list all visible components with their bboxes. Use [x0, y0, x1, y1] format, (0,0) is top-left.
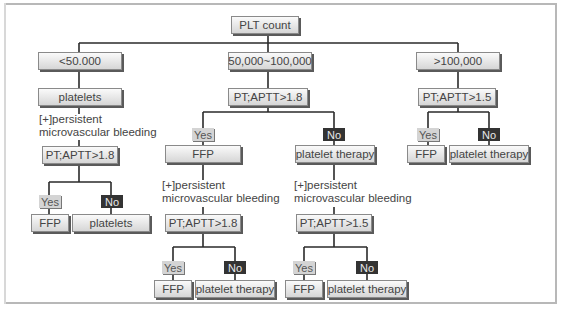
mid-yes-no-tag: No: [224, 261, 246, 274]
low-range-label: <50.000: [59, 55, 101, 67]
mid-range-node: 50,000~100,000: [228, 52, 312, 70]
mid-no-note-line2: microvascular bleeding: [294, 192, 412, 205]
high-yes-result: FFP: [415, 148, 437, 160]
mid-no-yes-label: Yes: [295, 262, 313, 274]
high-range-label: >100,000: [434, 55, 482, 67]
high-no-label: No: [482, 129, 496, 141]
low-yes-label: Yes: [41, 196, 59, 208]
mid-yes-note: [+]persistent microvascular bleeding: [162, 179, 280, 205]
mid-no-no-result: platelet therapy: [328, 283, 407, 295]
mid-test-label: PT;APTT>1.8: [234, 91, 303, 103]
low-no-result-node: platelets: [72, 214, 150, 232]
mid-no-no-label: No: [360, 262, 374, 274]
low-yes-result-node: FFP: [31, 214, 69, 232]
mid-yes-note-line1: [+]persistent: [162, 179, 280, 192]
low-note-line2: microvascular bleeding: [39, 126, 157, 139]
mid-yes-action-node: FFP: [165, 145, 241, 163]
root-label: PLT count: [239, 19, 290, 31]
mid-yes-test-node: PT;APTT>1.8: [165, 214, 241, 232]
high-test-label: PT;APTT>1.5: [423, 91, 492, 103]
low-note: [+]persistent microvascular bleeding: [39, 113, 157, 139]
mid-no-no-tag: No: [356, 261, 378, 274]
low-action-label: platelets: [59, 91, 102, 103]
mid-no-yes-tag: Yes: [293, 261, 315, 274]
mid-test-node: PT;APTT>1.8: [228, 88, 308, 106]
mid-no-note-line1: [+]persistent: [294, 179, 412, 192]
high-no-result-node: platelet therapy: [449, 145, 529, 163]
mid-no-test-node: PT;APTT>1.5: [296, 214, 372, 232]
mid-yes-yes-result: FFP: [162, 283, 184, 295]
mid-no-no-result-node: platelet therapy: [327, 280, 407, 298]
mid-no-tag: No: [323, 128, 345, 141]
mid-yes-tag: Yes: [192, 128, 214, 141]
high-test-node: PT;APTT>1.5: [418, 88, 496, 106]
low-yes-result: FFP: [39, 217, 61, 229]
low-no-tag: No: [101, 195, 123, 208]
root-node-plt-count: PLT count: [231, 16, 299, 34]
mid-no-note: [+]persistent microvascular bleeding: [294, 179, 412, 205]
low-action-node: platelets: [38, 88, 122, 106]
mid-yes-test-label: PT;APTT>1.8: [169, 217, 238, 229]
low-note-line1: [+]persistent: [39, 113, 157, 126]
mid-range-label: 50,000~100,000: [228, 55, 311, 67]
high-yes-result-node: FFP: [407, 145, 445, 163]
high-yes-label: Yes: [419, 129, 437, 141]
mid-yes-no-result-node: platelet therapy: [195, 280, 275, 298]
high-yes-tag: Yes: [417, 128, 439, 141]
low-no-label: No: [105, 196, 119, 208]
mid-no-action-label: platelet therapy: [296, 148, 375, 160]
mid-no-yes-result: FFP: [293, 283, 315, 295]
mid-no-action-node: platelet therapy: [295, 145, 375, 163]
mid-yes-no-label: No: [228, 262, 242, 274]
mid-no-test-label: PT;APTT>1.5: [300, 217, 369, 229]
low-no-result: platelets: [90, 217, 133, 229]
mid-yes-yes-result-node: FFP: [154, 280, 192, 298]
mid-no-yes-result-node: FFP: [285, 280, 323, 298]
low-test-node: PT;APTT>1.8: [42, 146, 118, 164]
mid-no-label: No: [327, 129, 341, 141]
high-no-result: platelet therapy: [450, 148, 529, 160]
low-yes-tag: Yes: [39, 195, 61, 208]
mid-yes-yes-label: Yes: [164, 262, 182, 274]
mid-yes-no-result: platelet therapy: [196, 283, 275, 295]
low-range-node: <50.000: [38, 52, 122, 70]
mid-yes-note-line2: microvascular bleeding: [162, 192, 280, 205]
mid-yes-yes-tag: Yes: [162, 261, 184, 274]
high-no-tag: No: [478, 128, 500, 141]
high-range-node: >100,000: [416, 52, 500, 70]
mid-yes-label: Yes: [194, 129, 212, 141]
mid-yes-action-label: FFP: [192, 148, 214, 160]
low-test-label: PT;APTT>1.8: [46, 149, 115, 161]
